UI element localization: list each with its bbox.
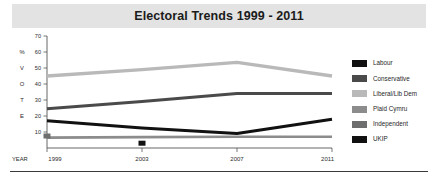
- y-tick-60: 60: [35, 49, 41, 55]
- x-tick-1999: 1999: [48, 156, 62, 162]
- page-title: Electoral Trends 1999 - 2011: [12, 4, 426, 28]
- y-tick-70: 70: [35, 33, 41, 39]
- legend-swatch-independent: [352, 121, 367, 128]
- y-tick-30: 30: [35, 97, 41, 103]
- legend-label-liberal-lib-dem: Liberal/Lib Dem: [373, 91, 417, 97]
- legend-swatch-labour: [352, 60, 367, 67]
- y-axis-letter-v: V: [20, 65, 24, 71]
- series-line-plaid-cymru: [47, 137, 332, 138]
- legend-label-ukip: UKIP: [373, 136, 388, 142]
- legend-item-independent[interactable]: Independent: [352, 117, 438, 132]
- y-tick-50: 50: [35, 65, 41, 71]
- legend-label-labour: Labour: [373, 60, 393, 66]
- y-axis-title: % V O T E: [19, 49, 24, 119]
- y-tick-10: 10: [35, 129, 41, 135]
- legend-item-conservative[interactable]: Conservative: [352, 71, 438, 86]
- x-tick-2011: 2011: [321, 156, 335, 162]
- legend-label-independent: Independent: [373, 121, 408, 127]
- legend-swatch-conservative: [352, 75, 367, 82]
- footer-divider: [10, 171, 428, 172]
- y-tick-40: 40: [35, 81, 41, 87]
- y-axis-ticks: 70 60 50 40 30 20 10: [35, 33, 47, 135]
- series-line-labour: [47, 119, 332, 133]
- x-tick-2003: 2003: [135, 156, 149, 162]
- y-tick-20: 20: [35, 113, 41, 119]
- legend-item-labour[interactable]: Labour: [352, 56, 438, 71]
- chart-page: Electoral Trends 1999 - 2011 70 60 50 40…: [0, 0, 438, 182]
- series-marker-ukip: [139, 141, 146, 146]
- title-band: Electoral Trends 1999 - 2011: [12, 4, 426, 28]
- legend-label-conservative: Conservative: [373, 76, 410, 82]
- x-tick-2007: 2007: [230, 156, 244, 162]
- y-axis-letter-e: E: [20, 113, 24, 119]
- legend-label-plaid-cymru: Plaid Cymru: [373, 106, 407, 112]
- legend-item-plaid-cymru[interactable]: Plaid Cymru: [352, 102, 438, 117]
- legend-swatch-ukip: [352, 136, 367, 143]
- y-axis-letter-t: T: [20, 97, 24, 103]
- series-marker-independent: [44, 134, 51, 139]
- series-line-conservative: [47, 94, 332, 109]
- legend-swatch-plaid-cymru: [352, 106, 367, 113]
- legend-item-liberal-lib-dem[interactable]: Liberal/Lib Dem: [352, 86, 438, 101]
- x-axis-title: YEAR: [12, 156, 28, 162]
- legend-item-ukip[interactable]: UKIP: [352, 132, 438, 147]
- y-axis-letter-o: O: [20, 81, 25, 87]
- series-layer: [44, 62, 333, 145]
- legend-swatch-liberal-lib-dem: [352, 90, 367, 97]
- chart-legend: Labour Conservative Liberal/Lib Dem Plai…: [352, 56, 438, 147]
- series-line-liberal-lib-dem: [47, 62, 332, 76]
- y-axis-letter-percent: %: [19, 49, 24, 55]
- x-axis-ticks: 1999 2003 2007 2011 YEAR: [12, 148, 335, 162]
